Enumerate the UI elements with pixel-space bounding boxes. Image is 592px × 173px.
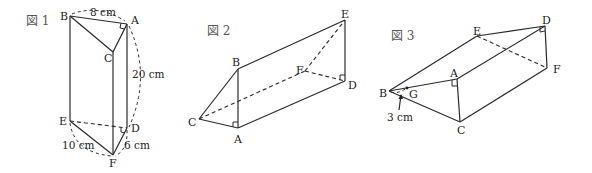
figure-2-title: 図 2 (207, 24, 230, 38)
vertex-label-C: C (457, 124, 465, 137)
edge-CA (199, 119, 238, 128)
figure-1: 図 1 B A C E D F 8 cm 20 cm 10 cm 6 cm (26, 6, 165, 170)
triangular-prism-diagrams: 図 1 B A C E D F 8 cm 20 cm 10 cm 6 cm (0, 0, 592, 173)
vertex-label-B: B (232, 56, 240, 69)
length-label-DF: 6 cm (124, 139, 150, 151)
vertex-label-A: A (449, 67, 459, 80)
vertex-label-F: F (109, 157, 117, 170)
length-label-AB: 8 cm (90, 6, 116, 18)
hidden-edge-FD (305, 71, 345, 81)
right-angle-mark-A (452, 80, 457, 86)
figure-2: 図 2 B C A F E D (188, 8, 357, 146)
vertex-label-B: B (379, 87, 387, 100)
length-label-EF: 10 cm (62, 139, 95, 151)
vertex-label-A: A (130, 14, 140, 27)
hidden-edge-ED (70, 121, 127, 128)
edge-CF (460, 68, 547, 122)
vertex-label-D: D (348, 79, 357, 92)
hidden-edge-FE (305, 20, 345, 71)
length-label-AD: 20 cm (132, 68, 165, 80)
point-G (406, 87, 409, 90)
edge-AD (238, 81, 345, 128)
vertex-label-D: D (131, 122, 140, 135)
vertex-label-E: E (341, 8, 349, 21)
figure-1-title: 図 1 (26, 14, 49, 28)
edge-AD (457, 26, 545, 79)
vertex-label-E: E (473, 25, 481, 38)
vertex-label-A: A (233, 133, 243, 146)
vertex-label-F: F (553, 63, 561, 76)
edge-BE (238, 20, 345, 69)
vertex-label-C: C (104, 52, 112, 65)
vertex-label-D: D (542, 14, 551, 27)
hidden-edge-EF (477, 36, 547, 68)
hidden-edge-CF (199, 71, 305, 119)
vertex-label-E: E (59, 115, 67, 128)
vertex-label-C: C (188, 116, 196, 129)
edge-ED (477, 26, 545, 36)
right-angle-mark-D (340, 75, 345, 80)
vertex-label-B: B (60, 10, 68, 23)
vertex-label-G: G (409, 88, 418, 101)
vertex-label-F: F (296, 64, 304, 77)
figure-3-title: 図 3 (391, 29, 414, 43)
right-angle-mark-A (233, 122, 238, 127)
edge-AC (457, 79, 460, 122)
edge-BC (199, 69, 238, 119)
length-label-BG: 3 cm (387, 111, 413, 123)
edge-DF (545, 26, 547, 68)
figure-3: 図 3 B G A C E D F 3 cm (379, 14, 561, 137)
